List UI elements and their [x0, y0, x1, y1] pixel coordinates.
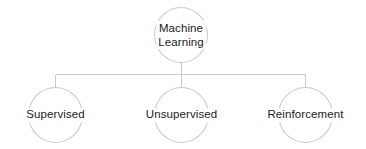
node-reinforcement-label: Reinforcement	[265, 108, 345, 122]
node-reinforcement: Reinforcement	[278, 87, 333, 143]
node-machine-learning-label: Machine Learning	[156, 21, 206, 49]
node-machine-learning-label-line2: Learning	[158, 35, 204, 49]
node-machine-learning-label-line1: Machine	[158, 21, 204, 35]
node-unsupervised: Unsupervised	[154, 87, 209, 143]
node-unsupervised-label: Unsupervised	[144, 108, 220, 122]
machine-learning-hierarchy-diagram: Machine Learning Supervised Unsupervised…	[0, 0, 366, 149]
node-supervised: Supervised	[28, 87, 83, 143]
node-machine-learning: Machine Learning	[154, 7, 208, 63]
node-supervised-label: Supervised	[24, 108, 87, 122]
